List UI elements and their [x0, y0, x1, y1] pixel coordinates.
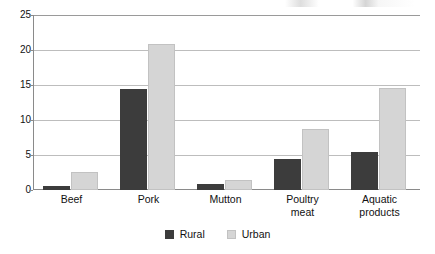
legend-label-urban: Urban [242, 229, 271, 240]
bar-group-aquatic-products [341, 15, 418, 190]
y-tick-mark-0 [29, 190, 33, 191]
legend-label-rural: Rural [180, 229, 205, 240]
y-axis: 25 20 15 10 5 0 [0, 0, 31, 254]
y-tick-label-10: 10 [5, 115, 31, 125]
bar-group-pork [110, 15, 187, 190]
y-tick-label-15: 15 [5, 80, 31, 90]
chart-legend: Rural Urban [0, 229, 435, 240]
x-label-mutton: Mutton [187, 193, 264, 206]
legend-swatch-rural-icon [165, 230, 174, 239]
bar-group-poultry-meat [264, 15, 341, 190]
x-label-beef: Beef [33, 193, 110, 206]
bar-group-beef [33, 15, 110, 190]
bar-rural-beef [43, 186, 70, 190]
legend-swatch-urban-icon [227, 230, 236, 239]
x-label-pork: Pork [110, 193, 187, 206]
y-tick-label-0: 0 [5, 185, 31, 195]
legend-item-urban: Urban [227, 229, 271, 240]
x-axis-labels: Beef Pork Mutton Poultry meat Aquatic pr… [33, 193, 420, 225]
bar-rural-mutton [197, 184, 224, 190]
bars-layer [33, 15, 420, 190]
y-tick-label-25: 25 [5, 10, 31, 20]
scan-artifact [285, 0, 415, 7]
bar-group-mutton [187, 15, 264, 190]
legend-item-rural: Rural [165, 229, 205, 240]
y-tick-label-20: 20 [5, 45, 31, 55]
bar-rural-aquatic-products [351, 152, 378, 190]
bar-urban-beef [71, 172, 98, 190]
bar-urban-pork [148, 44, 175, 190]
bar-urban-mutton [225, 180, 252, 190]
bar-urban-aquatic-products [379, 88, 406, 190]
bar-rural-poultry-meat [274, 159, 301, 190]
x-label-aquatic-products: Aquatic products [341, 193, 418, 218]
x-label-poultry-meat: Poultry meat [264, 193, 341, 218]
bar-chart: 25 20 15 10 5 0 [0, 0, 435, 254]
bar-urban-poultry-meat [302, 129, 329, 190]
bar-rural-pork [120, 89, 147, 190]
y-tick-label-5: 5 [5, 150, 31, 160]
